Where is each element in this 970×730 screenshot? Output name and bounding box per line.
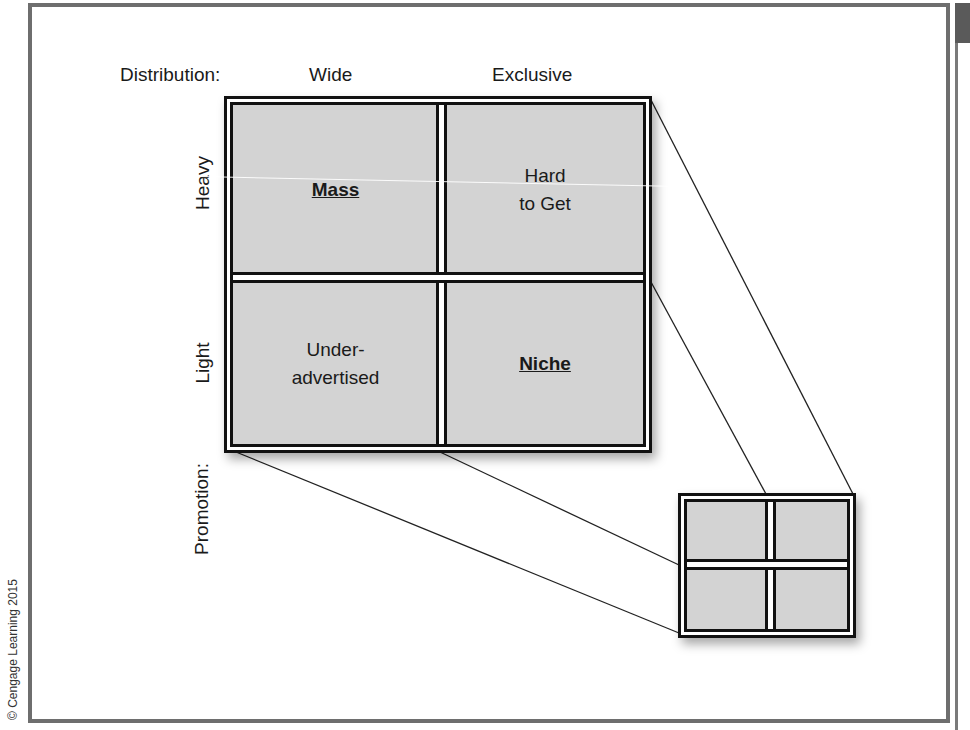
copyright-notice: © Cengage Learning 2015 <box>6 579 20 720</box>
distribution-level-wide: Wide <box>309 64 352 86</box>
mini-horizontal-divider <box>687 559 847 570</box>
cell-hard-to-get-line2: to Get <box>519 190 571 218</box>
promotion-level-light: Light <box>192 338 214 388</box>
strategy-matrix: Mass Hard to Get Under- advertised Niche <box>224 96 652 453</box>
mini-cell-bottom-right <box>776 570 847 629</box>
promotion-axis-label: Promotion: <box>191 457 213 561</box>
corner-tab <box>955 3 970 43</box>
cell-niche: Niche <box>447 283 643 444</box>
horizontal-divider <box>233 272 643 283</box>
mini-cell-top-right <box>776 502 847 561</box>
promotion-level-heavy: Heavy <box>192 156 214 210</box>
mini-matrix <box>678 493 856 638</box>
distribution-level-exclusive: Exclusive <box>492 64 572 86</box>
cell-underadvertised-line1: Under- <box>292 336 380 364</box>
cell-niche-label: Niche <box>519 350 571 378</box>
cell-underadvertised: Under- advertised <box>233 283 438 444</box>
cell-hard-to-get-line1: Hard <box>519 162 571 190</box>
cell-underadvertised-line2: advertised <box>292 364 380 392</box>
mini-cell-top-left <box>687 502 767 561</box>
cell-mass: Mass <box>233 105 438 274</box>
distribution-axis-label: Distribution: <box>120 64 220 86</box>
mini-cell-bottom-left <box>687 570 767 629</box>
cell-hard-to-get: Hard to Get <box>447 105 643 274</box>
adjacent-page-edge <box>955 43 970 730</box>
